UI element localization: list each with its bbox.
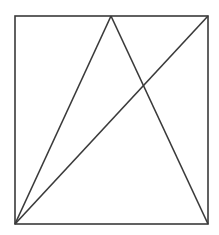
apex-to-bottom-left-line [15,16,111,224]
geometry-diagram [0,0,219,235]
apex-to-bottom-right-line [111,16,208,224]
diagonal-bottom-left-to-top-right-line [15,16,208,224]
